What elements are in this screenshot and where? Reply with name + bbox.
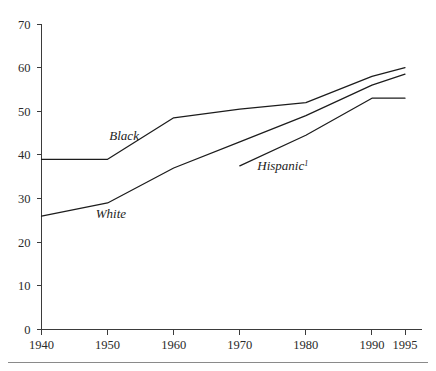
chart-container: 010203040506070 194019501960197019801990… bbox=[0, 0, 436, 371]
x-tick-label-1940: 1940 bbox=[29, 338, 54, 352]
y-tick-label-0: 0 bbox=[24, 323, 30, 337]
series-lines-group bbox=[42, 68, 406, 216]
x-tick-label-1970: 1970 bbox=[227, 338, 252, 352]
series-label-text-hispanic: Hispanic bbox=[256, 158, 304, 173]
x-axis-tick-labels: 1940195019601970198019901995 bbox=[29, 338, 418, 352]
x-tick-label-1960: 1960 bbox=[161, 338, 186, 352]
x-tick-label-1950: 1950 bbox=[95, 338, 120, 352]
footnote-marker-hispanic: 1 bbox=[304, 159, 308, 168]
series-labels-group: BlackWhiteHispanic1 bbox=[96, 128, 308, 222]
y-tick-label-30: 30 bbox=[18, 192, 31, 206]
series-line-white bbox=[42, 74, 406, 216]
series-label-text-white: White bbox=[96, 206, 127, 221]
series-line-black bbox=[42, 68, 406, 160]
x-axis-ticks bbox=[42, 330, 406, 335]
series-label-black: Black bbox=[109, 128, 139, 143]
series-label-white: White bbox=[96, 206, 127, 221]
x-tick-label-1990: 1990 bbox=[359, 338, 384, 352]
line-chart: 010203040506070 194019501960197019801990… bbox=[0, 0, 436, 371]
y-tick-label-40: 40 bbox=[18, 148, 31, 162]
x-tick-label-1980: 1980 bbox=[293, 338, 318, 352]
series-label-text-black: Black bbox=[109, 128, 139, 143]
y-tick-label-60: 60 bbox=[18, 61, 31, 75]
y-axis-ticks bbox=[37, 24, 42, 330]
series-label-hispanic: Hispanic1 bbox=[256, 158, 308, 173]
y-tick-label-50: 50 bbox=[18, 105, 31, 119]
y-tick-label-20: 20 bbox=[18, 236, 31, 250]
y-axis-tick-labels: 010203040506070 bbox=[18, 18, 31, 338]
y-tick-label-10: 10 bbox=[18, 279, 31, 293]
x-tick-label-1995: 1995 bbox=[393, 338, 418, 352]
y-tick-label-70: 70 bbox=[18, 18, 31, 32]
